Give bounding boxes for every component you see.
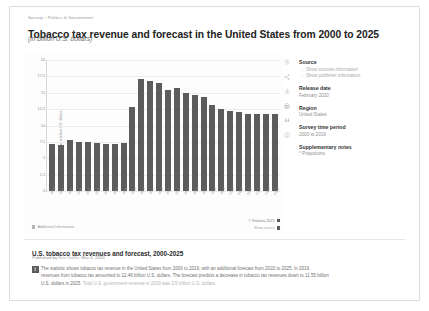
chart-bar[interactable] xyxy=(218,109,224,191)
author-link[interactable]: Erin Duffin xyxy=(58,255,78,260)
info-badge-icon: i xyxy=(32,266,39,273)
y-axis-tick-label: 20 xyxy=(41,58,45,62)
release-date-heading: Release date xyxy=(299,85,411,91)
chart-bar[interactable] xyxy=(227,111,233,191)
chart-bar-wrapper[interactable] xyxy=(101,60,110,191)
page-subtitle: (in billion U.S. dollars) xyxy=(28,35,92,42)
chart-bar[interactable] xyxy=(147,81,153,191)
breadcrumb[interactable]: Society›Politics & Government xyxy=(28,15,93,20)
chart-bar-wrapper[interactable] xyxy=(190,60,199,191)
x-axis-label-wrapper: 2025* xyxy=(270,190,279,206)
chart-bar[interactable] xyxy=(263,114,269,191)
chart-bar[interactable] xyxy=(138,79,144,191)
chart-bar-wrapper[interactable] xyxy=(217,60,226,191)
chart-footer: Additional Information © Statista 2021 S… xyxy=(28,214,282,230)
chart-bar[interactable] xyxy=(209,105,215,191)
show-publisher-information-label: Show publisher information xyxy=(306,73,360,78)
y-axis-tick-label: 12.5 xyxy=(38,107,45,111)
x-axis-label-wrapper: 2023* xyxy=(252,190,261,206)
chart-action-toolbar[interactable] xyxy=(280,59,294,139)
published-prefix: Published by xyxy=(32,255,57,260)
chart-bar[interactable] xyxy=(85,142,91,191)
chart-bar[interactable] xyxy=(67,140,73,191)
chart-bar-wrapper[interactable] xyxy=(270,60,279,191)
chart-bar[interactable] xyxy=(58,145,64,191)
chart-bar-wrapper[interactable] xyxy=(235,60,244,191)
chart-bar-wrapper[interactable] xyxy=(84,60,93,191)
chart-bar-wrapper[interactable] xyxy=(208,60,217,191)
x-axis-label-wrapper: 2018 xyxy=(208,190,217,206)
x-axis-label-wrapper: 2017 xyxy=(199,190,208,206)
x-axis-label-wrapper: 2012 xyxy=(154,190,163,206)
chart-bar-wrapper[interactable] xyxy=(92,60,101,191)
chart-bar[interactable] xyxy=(94,143,100,191)
settings-icon[interactable] xyxy=(284,59,291,66)
copyright-notice: © Statista 2021 xyxy=(248,218,280,223)
show-publisher-information-link[interactable]: → Show publisher information xyxy=(299,73,411,78)
chart-bar[interactable] xyxy=(236,112,242,191)
x-axis-label-wrapper: 2000 xyxy=(47,190,56,206)
chart-bar-wrapper[interactable] xyxy=(199,60,208,191)
breadcrumb-section[interactable]: Politics & Government xyxy=(48,15,94,20)
show-source-button[interactable]: Show source xyxy=(254,226,280,230)
section-divider xyxy=(24,239,405,240)
chart-bar[interactable] xyxy=(245,114,251,191)
chart-bar-wrapper[interactable] xyxy=(75,60,84,191)
chart-bar-wrapper[interactable] xyxy=(119,60,128,191)
breadcrumb-root[interactable]: Society xyxy=(28,15,43,20)
chart-bar[interactable] xyxy=(254,114,260,191)
survey-time-period-value: 2000 to 2019 xyxy=(299,132,411,137)
chart-plot-area: 2017.51512.5107.552.50 xyxy=(46,60,280,192)
chart-bar[interactable] xyxy=(49,144,55,191)
x-axis-label-wrapper: 2010 xyxy=(136,190,145,206)
info-icon[interactable] xyxy=(284,132,291,139)
region-value: United States xyxy=(299,112,411,117)
chart-bar-wrapper[interactable] xyxy=(137,60,146,191)
download-icon[interactable] xyxy=(284,88,291,95)
chart-bar-wrapper[interactable] xyxy=(261,60,270,191)
chart-bar[interactable] xyxy=(112,144,118,191)
chart-bar[interactable] xyxy=(201,97,207,191)
chart-bar[interactable] xyxy=(121,143,127,191)
chart-bars xyxy=(47,60,280,191)
chart-bar[interactable] xyxy=(272,114,278,191)
x-axis-label-wrapper: 2024* xyxy=(261,190,270,206)
chart-bar-wrapper[interactable] xyxy=(128,60,137,191)
chart-bar[interactable] xyxy=(76,142,82,191)
chart-bar-wrapper[interactable] xyxy=(172,60,181,191)
x-axis-label-wrapper: 2003 xyxy=(74,190,83,206)
release-date-value: February 2020 xyxy=(299,93,411,98)
chart-bar-wrapper[interactable] xyxy=(146,60,155,191)
additional-information-toggle[interactable]: Additional Information xyxy=(32,225,74,229)
statista-logo-icon xyxy=(277,219,280,222)
chevron-icon xyxy=(277,226,280,229)
chart-bar-wrapper[interactable] xyxy=(48,60,57,191)
chart-bar[interactable] xyxy=(103,144,109,191)
print-icon[interactable] xyxy=(284,103,291,110)
chart-bar-wrapper[interactable] xyxy=(164,60,173,191)
show-sources-information-link[interactable]: → Show sources information xyxy=(299,67,411,72)
chart-bar[interactable] xyxy=(174,88,180,191)
chart-bar-wrapper[interactable] xyxy=(181,60,190,191)
x-axis-label-wrapper: 2004 xyxy=(83,190,92,206)
chart-bar-wrapper[interactable] xyxy=(226,60,235,191)
chart-bar[interactable] xyxy=(129,107,135,191)
x-axis-label-wrapper: 2013 xyxy=(163,190,172,206)
chart-bar[interactable] xyxy=(165,90,171,191)
chart-bar-wrapper[interactable] xyxy=(155,60,164,191)
citation-icon[interactable] xyxy=(284,117,291,124)
breadcrumb-separator: › xyxy=(45,15,47,20)
chart-bar-wrapper[interactable] xyxy=(66,60,75,191)
chart-bar[interactable] xyxy=(192,95,198,191)
description-paragraph-2: Total U.S. government revenue in 2019 wa… xyxy=(83,281,217,286)
share-icon[interactable] xyxy=(284,74,291,81)
chart-bar-wrapper[interactable] xyxy=(57,60,66,191)
description-byline: Published by Erin Duffin, Mar 4, 2020 xyxy=(32,255,105,260)
chart-bar-wrapper[interactable] xyxy=(244,60,253,191)
chart-bar[interactable] xyxy=(156,83,162,191)
chart-bar-wrapper[interactable] xyxy=(110,60,119,191)
screenshot-root: Society›Politics & Government Tobacco ta… xyxy=(0,0,429,311)
chart-bar[interactable] xyxy=(183,93,189,191)
x-axis-label-wrapper: 2011 xyxy=(145,190,154,206)
chart-bar-wrapper[interactable] xyxy=(252,60,261,191)
